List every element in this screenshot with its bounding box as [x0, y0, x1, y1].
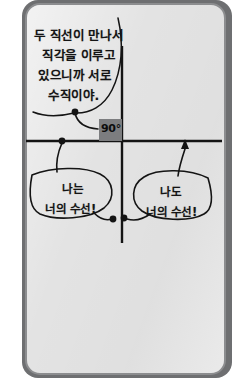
right-bubble-target-dot	[121, 215, 128, 222]
left-bubble-tail-upper	[57, 143, 62, 172]
intro-bubble-line-1: 두 직선이 만나서	[34, 25, 123, 44]
left-bubble-line-1: 나는	[62, 180, 83, 196]
left-bubble-target-dot	[110, 216, 117, 223]
left-bubble-tail-lower	[94, 213, 112, 220]
intro-bubble-line-2: 직각을 이루고	[42, 45, 116, 64]
intro-bubble-underline	[33, 112, 74, 116]
intro-bubble-line-3: 있으니까 서로	[38, 65, 112, 84]
right-bubble-line-2: 너의 수선!	[146, 203, 197, 219]
right-angle-label: 90°	[101, 122, 124, 135]
right-bubble-line-1: 나도	[160, 183, 181, 199]
diagram-artwork	[0, 0, 239, 386]
left-bubble-line-2: 너의 수선!	[45, 200, 96, 216]
illustration-stage: 90° 두 직선이 만나서 직각을 이루고 있으니까 서로 수직이야. 나는 너…	[0, 0, 239, 386]
intro-pointer-tail	[75, 113, 98, 129]
intro-bubble-line-4: 수직이야.	[48, 85, 99, 104]
